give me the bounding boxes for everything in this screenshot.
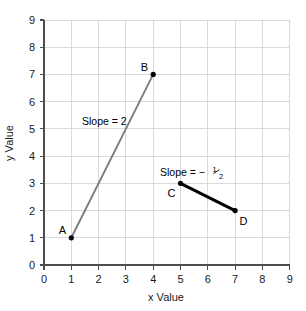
y-tick-label-4: 4 <box>29 150 35 162</box>
y-tick-label-5: 5 <box>29 123 35 135</box>
chart-container: 0 1 2 3 4 5 6 7 8 9 0 1 2 3 4 5 6 7 8 9 … <box>0 0 306 311</box>
slope-scatter-chart: 0 1 2 3 4 5 6 7 8 9 0 1 2 3 4 5 6 7 8 9 … <box>0 0 306 311</box>
x-tick-label-3: 3 <box>123 273 129 285</box>
y-tick-label-7: 7 <box>29 68 35 80</box>
y-tick-label-8: 8 <box>29 41 35 53</box>
data-point-label-d: D <box>240 215 248 227</box>
x-tick-label-1: 1 <box>68 273 74 285</box>
slope-annotation-ab: Slope = 2 <box>82 115 127 127</box>
data-point-d <box>233 208 238 213</box>
data-point-label-b: B <box>141 61 148 73</box>
x-tick-label-9: 9 <box>287 273 293 285</box>
y-tick-label-3: 3 <box>29 177 35 189</box>
y-tick-label-1: 1 <box>29 232 35 244</box>
x-tick-label-4: 4 <box>150 273 156 285</box>
y-tick-label-6: 6 <box>29 96 35 108</box>
y-tick-label-9: 9 <box>29 14 35 26</box>
x-tick-label-0: 0 <box>41 273 47 285</box>
x-tick-label-5: 5 <box>177 273 183 285</box>
data-point-label-c: C <box>168 187 176 199</box>
slope-annotation-cd-denominator: 2 <box>219 172 223 181</box>
data-point-a <box>69 235 74 240</box>
x-tick-label-7: 7 <box>232 273 238 285</box>
data-point-c <box>178 181 183 186</box>
y-tick-label-2: 2 <box>29 205 35 217</box>
y-axis-title: y Value <box>3 125 15 161</box>
y-tick-label-0: 0 <box>29 259 35 271</box>
x-axis-title: x Value <box>148 291 184 303</box>
data-point-b <box>151 72 156 77</box>
x-tick-label-8: 8 <box>259 273 265 285</box>
x-tick-label-6: 6 <box>205 273 211 285</box>
slope-annotation-cd-prefix: Slope = − <box>160 166 205 178</box>
data-point-label-a: A <box>59 224 67 236</box>
x-tick-label-2: 2 <box>96 273 102 285</box>
